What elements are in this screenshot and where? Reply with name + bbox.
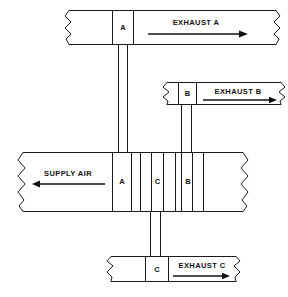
- riser-b: [181, 104, 192, 154]
- damper-label-a-top: A: [120, 23, 126, 32]
- duct-exhaust-a: A EXHAUST A: [65, 10, 280, 45]
- damper-label-c-bottom: C: [154, 265, 160, 274]
- flow-label-exhaust-a: EXHAUST A: [173, 18, 220, 27]
- damper-label-b-mid: B: [185, 89, 191, 98]
- flow-label-exhaust-c: EXHAUST C: [179, 261, 226, 270]
- duct-supply-air: A C B SUPPLY AIR: [18, 152, 248, 212]
- flow-label-supply-air: SUPPLY AIR: [44, 169, 92, 178]
- riser-a: [118, 44, 128, 154]
- damper-label-a-supply: A: [119, 177, 125, 186]
- duct-exhaust-b: B EXHAUST B: [163, 82, 285, 105]
- duct-diagram: A EXHAUST A B EXHAUST B: [0, 0, 288, 297]
- duct-diagram-canvas: A EXHAUST A B EXHAUST B: [0, 0, 288, 297]
- damper-label-b-supply: B: [185, 177, 191, 186]
- duct-exhaust-c: C EXHAUST C: [107, 256, 240, 282]
- riser-c: [150, 211, 161, 258]
- flow-label-exhaust-b: EXHAUST B: [215, 87, 262, 96]
- damper-label-c-supply: C: [155, 177, 161, 186]
